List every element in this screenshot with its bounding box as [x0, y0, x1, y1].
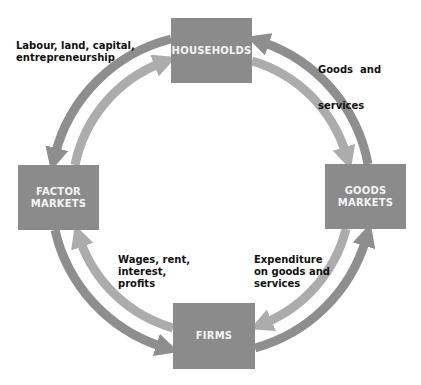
goods-markets-label-line2: MARKETS — [338, 197, 393, 209]
expenditure-label-line3: services — [254, 278, 330, 290]
incomes-label-line3: profits — [118, 278, 190, 290]
firms-label: FIRMS — [196, 330, 232, 342]
factors-label-line1: Labour, land, capital, — [16, 40, 135, 52]
goods-services-label-line1: Goods and — [318, 64, 381, 76]
expenditure-label-line2: on goods and — [254, 266, 330, 278]
expenditure-label: Expenditure on goods and services — [254, 254, 330, 290]
factor-markets-label-line1: FACTOR — [36, 186, 81, 198]
goods-services-label-line2: services — [318, 100, 381, 112]
goods-markets-label-line1: GOODS — [345, 185, 387, 197]
incomes-label-line1: Wages, rent, — [118, 254, 190, 266]
factor-incomes-label: Wages, rent, interest, profits — [118, 254, 190, 290]
expenditure-label-line1: Expenditure — [254, 254, 330, 266]
goods-and-services-label: Goods and services — [318, 40, 381, 136]
circular-flow-diagram: HOUSEHOLDS FACTOR MARKETS GOODS MARKETS … — [0, 0, 421, 385]
households-box: HOUSEHOLDS — [171, 18, 252, 83]
firms-box: FIRMS — [173, 303, 255, 369]
incomes-label-line2: interest, — [118, 266, 190, 278]
arrow-factor-markets-to-households — [75, 63, 161, 165]
factors-label-line2: entrepreneurship — [16, 52, 135, 64]
households-label: HOUSEHOLDS — [172, 45, 252, 57]
goods-markets-box: GOODS MARKETS — [325, 164, 406, 229]
factors-of-production-label: Labour, land, capital, entrepreneurship — [16, 40, 135, 64]
factor-markets-box: FACTOR MARKETS — [18, 165, 99, 230]
factor-markets-label-line2: MARKETS — [31, 198, 86, 210]
